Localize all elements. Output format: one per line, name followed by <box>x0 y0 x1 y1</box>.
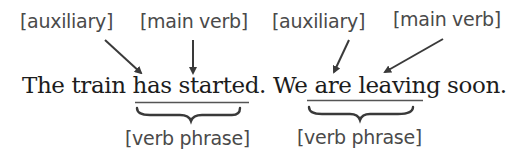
diagram-graphics <box>0 0 519 165</box>
brace-verb-phrase-2 <box>309 107 413 120</box>
arrow-auxiliary-1 <box>105 40 141 73</box>
arrow-main-verb-2 <box>385 39 443 72</box>
arrow-auxiliary-2 <box>334 40 349 72</box>
label-verb-phrase-2: [verb phrase] <box>297 126 422 148</box>
label-verb-phrase-1: [verb phrase] <box>125 127 250 149</box>
brace-verb-phrase-1 <box>137 108 240 121</box>
